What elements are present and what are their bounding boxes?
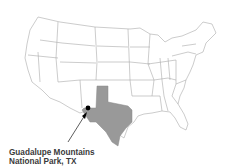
location-marker — [86, 106, 91, 111]
us-map — [0, 0, 227, 167]
pointer-arrow — [68, 115, 85, 142]
park-label-line2: National Park, TX — [9, 157, 95, 166]
park-label-line1: Guadalupe Mountains — [9, 148, 95, 157]
park-label: Guadalupe Mountains National Park, TX — [9, 148, 95, 166]
